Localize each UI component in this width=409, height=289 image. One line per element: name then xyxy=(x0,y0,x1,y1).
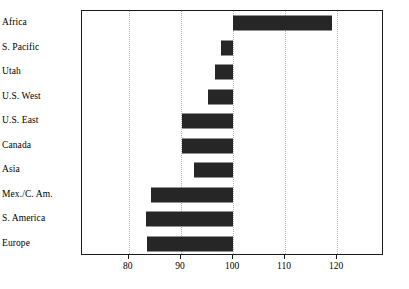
bar xyxy=(208,89,233,104)
bar xyxy=(194,163,233,178)
x-tick-label: 110 xyxy=(277,261,291,271)
category-label: Canada xyxy=(2,139,73,150)
category-label: Utah xyxy=(2,66,73,77)
bar xyxy=(215,65,233,80)
plot-area xyxy=(81,10,383,255)
category-label: Europe xyxy=(2,237,73,248)
gridline-80 xyxy=(129,11,130,254)
bar xyxy=(221,40,233,55)
x-tick-90 xyxy=(180,255,181,259)
category-label: U.S. West xyxy=(2,90,73,101)
x-tick-label: 80 xyxy=(123,261,133,271)
category-label: Asia xyxy=(2,164,73,175)
gridline-120 xyxy=(337,11,338,254)
x-tick-label: 90 xyxy=(175,261,185,271)
x-tick-120 xyxy=(336,255,337,259)
bar xyxy=(233,16,332,31)
bar xyxy=(182,114,233,129)
x-tick-100 xyxy=(232,255,233,259)
bar-chart: AfricaS. PacificUtahU.S. WestU.S. EastCa… xyxy=(0,0,409,289)
x-tick-110 xyxy=(284,255,285,259)
bar xyxy=(146,212,233,227)
category-label: U.S. East xyxy=(2,115,73,126)
category-axis-labels: AfricaS. PacificUtahU.S. WestU.S. EastCa… xyxy=(0,10,78,255)
gridline-100 xyxy=(233,11,234,254)
x-axis: 8090100110120 xyxy=(81,255,383,285)
x-tick-label: 100 xyxy=(225,261,239,271)
gridline-110 xyxy=(285,11,286,254)
x-tick-label: 120 xyxy=(329,261,343,271)
bar xyxy=(147,236,233,251)
category-label: S. America xyxy=(2,213,73,224)
category-label: S. Pacific xyxy=(2,41,73,52)
bar xyxy=(182,138,233,153)
x-tick-80 xyxy=(128,255,129,259)
category-label: Africa xyxy=(2,17,73,28)
category-label: Mex./C. Am. xyxy=(2,188,73,199)
bar xyxy=(151,187,233,202)
